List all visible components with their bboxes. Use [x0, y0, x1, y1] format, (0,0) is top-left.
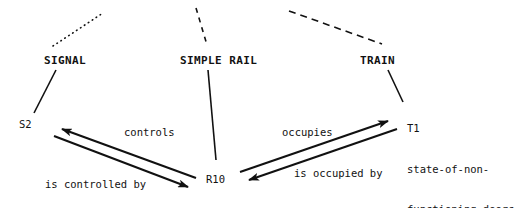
instance-label-t1-line-3: functioning-doors [407, 203, 514, 208]
instance-label-t1-line-1: T1 [407, 122, 514, 136]
train-to-t1-connector [388, 70, 403, 102]
simple-rail-to-r10-connector [208, 70, 216, 160]
relation-label-is-occupied-by: is occupied by [294, 167, 383, 180]
instance-label-t1-line-2: state-of-non- [407, 163, 514, 177]
class-label-signal: SIGNAL [44, 54, 86, 67]
class-label-train: TRAIN [360, 54, 395, 67]
instance-label-r10: R10 [206, 173, 225, 186]
signal-to-s2-connector [34, 70, 56, 113]
class-label-simple-rail: SIMPLE RAIL [180, 54, 257, 67]
relation-label-controls: controls [124, 126, 175, 139]
relation-label-occupies: occupies [282, 126, 333, 139]
instance-label-t1: T1 state-of-non- functioning-doors [407, 95, 514, 208]
diagram-canvas: SIGNAL SIMPLE RAIL TRAIN S2 R10 T1 state… [0, 0, 531, 208]
train-dashed-connector [289, 11, 382, 44]
simple-rail-dashed-connector [196, 8, 207, 45]
relation-label-is-controlled-by: is controlled by [45, 178, 146, 191]
instance-label-s2: S2 [19, 118, 32, 131]
signal-dotted-connector [53, 13, 103, 46]
